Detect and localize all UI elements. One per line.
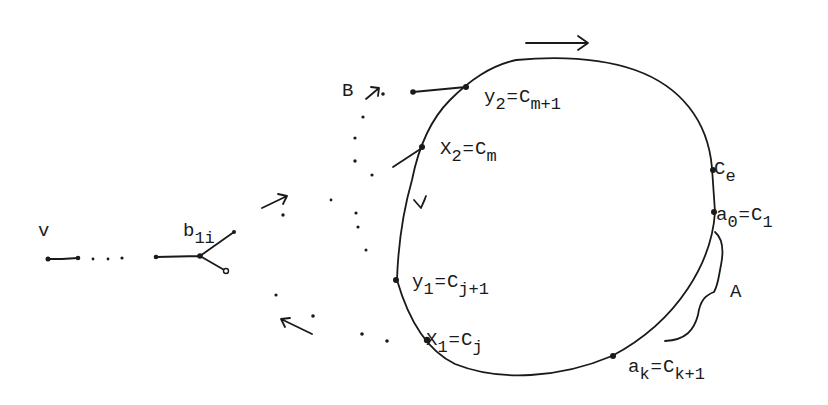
label-y1-rhs: C xyxy=(447,271,458,293)
label-x1: X1=Cj xyxy=(426,331,483,350)
label-b1i-sub: 1i xyxy=(194,229,214,248)
label-a0-eq: = xyxy=(739,204,750,226)
label-ak-rhs: C xyxy=(663,356,674,378)
label-y1: y1=Cj+1 xyxy=(412,273,489,292)
vertex-x2 xyxy=(419,144,425,150)
label-a0-lhs-sub: 0 xyxy=(727,213,737,232)
label-x2-rhs: C xyxy=(475,138,486,160)
label-a0-rhs-sub: 1 xyxy=(762,213,772,232)
label-B: B xyxy=(342,82,353,101)
label-y2-rhs-sub: m+1 xyxy=(530,95,561,114)
label-x2-lhs-sub: 2 xyxy=(451,147,461,166)
label-y1-lhs: y xyxy=(412,271,423,293)
vertex-b-bottom xyxy=(224,269,229,274)
vertex-y1 xyxy=(393,277,399,283)
label-x2: X2=Cm xyxy=(440,140,497,159)
vertex-v-start xyxy=(46,257,51,262)
path-in-arrow xyxy=(281,318,312,334)
vertex-v-end xyxy=(76,256,81,261)
vertex-b1i xyxy=(197,253,203,259)
label-y2-lhs-sub: 2 xyxy=(495,95,505,114)
label-a0-lhs: a xyxy=(716,204,727,226)
path-B-arrow xyxy=(366,87,379,99)
vertex-y2-end xyxy=(410,89,416,95)
label-y1-eq: = xyxy=(435,271,446,293)
label-b1i: b1i xyxy=(183,222,215,241)
cycle-diagram xyxy=(0,0,828,405)
cycle-direction-top-arrow xyxy=(526,36,588,50)
label-x2-eq: = xyxy=(463,138,474,160)
label-y2-eq: = xyxy=(507,86,518,108)
label-v-text: v xyxy=(38,220,49,242)
label-ak-eq: = xyxy=(651,356,662,378)
label-x1-rhs: C xyxy=(461,329,472,351)
label-y2-rhs: C xyxy=(519,86,530,108)
label-ak-rhs-sub: k+1 xyxy=(674,365,705,384)
label-x2-rhs-sub: m xyxy=(486,147,496,166)
label-x1-lhs-sub: 1 xyxy=(437,338,447,357)
label-y1-rhs-sub: j+1 xyxy=(458,280,489,299)
vertex-b-top xyxy=(232,230,236,234)
vertex-b-left xyxy=(154,255,159,260)
ellipsis-dots xyxy=(92,92,389,343)
vertex-ak xyxy=(610,353,616,359)
label-ak: ak=Ck+1 xyxy=(628,358,705,377)
label-ak-lhs-sub: k xyxy=(639,365,649,384)
label-ak-lhs: a xyxy=(628,356,639,378)
label-ce-base: C xyxy=(714,158,725,180)
label-y1-lhs-sub: 1 xyxy=(423,280,433,299)
label-x1-lhs: X xyxy=(426,329,437,351)
label-A-text: A xyxy=(730,281,741,303)
path-out-arrow xyxy=(262,194,287,208)
label-A: A xyxy=(730,283,741,302)
cycle-direction-left-arrow xyxy=(414,196,426,208)
label-v: v xyxy=(38,222,49,241)
label-ce: Ce xyxy=(714,160,736,179)
label-x1-rhs-sub: j xyxy=(472,338,482,357)
label-a0-rhs: C xyxy=(751,204,762,226)
label-y2-lhs: y xyxy=(484,86,495,108)
label-B-text: B xyxy=(342,80,353,102)
label-b1i-base: b xyxy=(183,220,194,242)
path-v-segment xyxy=(48,258,78,259)
vertex-y2 xyxy=(463,84,469,90)
label-y2: y2=Cm+1 xyxy=(484,88,561,107)
label-a0: a0=C1 xyxy=(716,206,773,225)
A-brace xyxy=(665,232,722,341)
label-x2-lhs: X xyxy=(440,138,451,160)
label-x1-eq: = xyxy=(449,329,460,351)
label-ce-sub: e xyxy=(725,167,735,186)
